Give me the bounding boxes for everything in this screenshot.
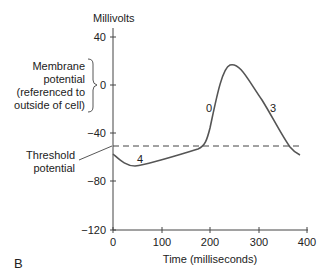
- x-tick-label: 300: [250, 236, 268, 248]
- x-tick-label: 200: [201, 236, 219, 248]
- phase-0-label: 0: [206, 102, 212, 114]
- action-potential-chart: 40 0 −40 −80 −120 0 100 200 300 400 Mill…: [0, 0, 325, 276]
- svg-text:Membrane: Membrane: [32, 60, 85, 72]
- threshold-potential-annotation: Threshold potential: [26, 146, 112, 174]
- x-tick-label: 100: [153, 236, 171, 248]
- phase-3-label: 3: [270, 102, 276, 114]
- brace-icon: [88, 59, 97, 112]
- y-tick-label: −120: [81, 224, 106, 236]
- threshold-leader-line: [79, 146, 112, 160]
- svg-text:potential: potential: [33, 162, 75, 174]
- y-tick-label: −40: [87, 127, 106, 139]
- x-tick-label: 0: [110, 236, 116, 248]
- membrane-potential-annotation: Membrane potential (referenced to outsid…: [14, 59, 97, 112]
- x-tick-label: 400: [298, 236, 316, 248]
- svg-text:Threshold: Threshold: [26, 149, 75, 161]
- x-axis-label: Time (milliseconds): [163, 253, 257, 265]
- membrane-potential-curve: [113, 65, 300, 166]
- y-tick-label: 0: [100, 79, 106, 91]
- y-tick-label: −80: [87, 175, 106, 187]
- panel-label: B: [14, 256, 23, 271]
- y-axis-label: Millivolts: [93, 12, 135, 24]
- svg-text:outside of cell): outside of cell): [14, 99, 85, 111]
- phase-4-label: 4: [137, 153, 143, 165]
- svg-text:(referenced to: (referenced to: [17, 86, 85, 98]
- y-tick-label: 40: [94, 31, 106, 43]
- svg-text:potential: potential: [43, 73, 85, 85]
